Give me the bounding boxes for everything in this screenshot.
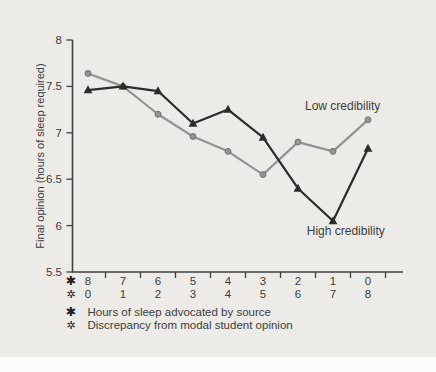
x-value-label-row2: 3 xyxy=(190,288,196,300)
marker-circle-low-credibility xyxy=(295,139,301,145)
x-value-label-row2: 6 xyxy=(295,288,301,300)
legend-label-row1: Hours of sleep advocated by source xyxy=(88,306,271,318)
x-value-label-row2: 2 xyxy=(155,288,161,300)
y-tick-label: 8 xyxy=(56,34,62,46)
y-tick-label: 5.5 xyxy=(46,266,62,278)
marker-circle-low-credibility xyxy=(260,172,266,178)
marker-circle-low-credibility xyxy=(155,111,161,117)
marker-triangle-high-credibility xyxy=(224,105,233,113)
x-value-label-row2: 8 xyxy=(365,288,371,300)
x-value-label-row1: 4 xyxy=(225,275,232,287)
marker-circle-low-credibility xyxy=(190,134,196,140)
x-value-label-row1: 5 xyxy=(190,275,196,287)
marker-triangle-high-credibility xyxy=(364,144,373,152)
heavy-asterisk-icon: ✱ xyxy=(66,274,76,288)
x-value-label-row1: 0 xyxy=(365,275,371,287)
y-tick-label: 6.5 xyxy=(46,173,62,185)
open-centre-asterisk-icon: ✲ xyxy=(66,288,75,300)
y-tick-label: 6 xyxy=(56,220,62,232)
x-value-label-row1: 6 xyxy=(155,275,161,287)
x-value-label-row1: 2 xyxy=(295,275,301,287)
x-value-label-row1: 3 xyxy=(260,275,266,287)
y-tick-label: 7 xyxy=(56,127,62,139)
marker-circle-low-credibility xyxy=(225,148,231,154)
marker-circle-low-credibility xyxy=(330,148,336,154)
y-axis-title: Final opinion (hours of sleep required) xyxy=(34,63,46,248)
line-chart: 87.576.565.5Final opinion (hours of slee… xyxy=(0,0,436,372)
x-value-label-row1: 1 xyxy=(330,275,336,287)
x-value-label-row2: 4 xyxy=(225,288,232,300)
series-label-low-credibility: Low credibility xyxy=(305,99,380,113)
series-line-low-credibility xyxy=(88,73,368,174)
series-label-high-credibility: High credibility xyxy=(307,224,385,238)
marker-circle-low-credibility xyxy=(85,70,91,76)
x-value-label-row1: 7 xyxy=(120,275,126,287)
x-value-label-row2: 7 xyxy=(330,288,336,300)
legend-open-centre-asterisk-icon: ✲ xyxy=(66,319,75,331)
legend-label-row2: Discrepancy from modal student opinion xyxy=(88,319,293,331)
y-tick-label: 7.5 xyxy=(46,80,62,92)
x-value-label-row2: 0 xyxy=(85,288,91,300)
legend-heavy-asterisk-icon: ✱ xyxy=(66,305,76,319)
x-value-label-row1: 8 xyxy=(85,275,91,287)
marker-circle-low-credibility xyxy=(365,117,371,123)
x-value-label-row2: 5 xyxy=(260,288,266,300)
x-value-label-row2: 1 xyxy=(120,288,126,300)
